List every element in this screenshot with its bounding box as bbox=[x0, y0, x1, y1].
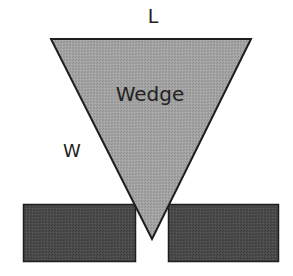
wedge-diagram: L W Wedge bbox=[0, 0, 293, 276]
wedge-label: Wedge bbox=[116, 82, 185, 106]
width-label: W bbox=[63, 140, 81, 161]
left-block bbox=[24, 205, 136, 262]
length-label: L bbox=[148, 5, 159, 27]
right-block bbox=[169, 205, 279, 262]
